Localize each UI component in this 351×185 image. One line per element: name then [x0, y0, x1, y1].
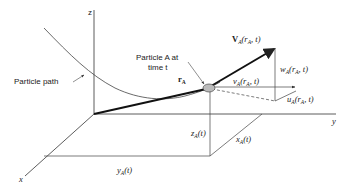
particle-path-curve — [44, 28, 220, 99]
y-axis-label: y — [331, 116, 336, 126]
position-vector-label: rA — [178, 74, 186, 85]
particle-pointer — [188, 62, 204, 84]
particle-a — [203, 84, 215, 92]
particle-path-label: Particle path — [14, 77, 58, 86]
x-axis — [25, 114, 94, 176]
particle-label-line1: Particle A at — [136, 53, 179, 62]
particle-path-pointer — [73, 75, 84, 82]
particle-kinematics-diagram: z y x Particle path Particle A at time t… — [0, 0, 351, 185]
z-coordinate-label: zA(t) — [190, 128, 206, 139]
z-axis-label: z — [88, 8, 92, 17]
v-component-label: vA(rA, t) — [233, 76, 259, 87]
velocity-label: VA(rA, t) — [232, 34, 261, 45]
position-vector — [94, 89, 206, 114]
diagram-canvas: z y x Particle path Particle A at time t… — [0, 0, 351, 185]
dashed-projection — [212, 89, 275, 101]
particle-label-line2: time t — [148, 63, 168, 72]
x-axis-label: x — [18, 174, 23, 184]
u-component-label: uA(rA, t) — [287, 94, 314, 105]
x-coordinate-label: xA(t) — [235, 134, 251, 145]
w-component-label: wA(rA, t) — [280, 64, 308, 75]
y-coordinate-label: yA(t) — [116, 165, 132, 176]
